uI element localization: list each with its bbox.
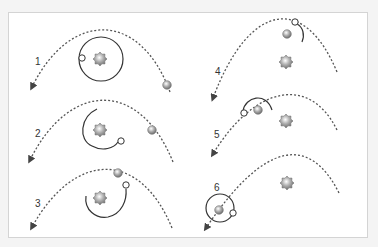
planet-icon (114, 169, 123, 178)
star-icon (93, 123, 107, 137)
panel-label: 2 (35, 129, 41, 139)
small-body-icon (292, 19, 298, 25)
gravity-assist-diagram (0, 0, 378, 247)
panel-label: 1 (35, 57, 41, 67)
panel-label: 6 (214, 183, 220, 193)
small-body-icon (79, 55, 85, 61)
star-icon (279, 55, 293, 69)
small-body-icon (118, 138, 124, 144)
panel-6 (206, 155, 339, 228)
planet-icon (215, 206, 224, 215)
trajectory-dashed-arrow (213, 95, 337, 154)
panel-4 (213, 19, 337, 98)
panel-label: 3 (35, 199, 41, 209)
star-icon (93, 52, 107, 66)
star-icon (93, 191, 107, 205)
small-body-icon (230, 210, 236, 216)
panel-label: 4 (215, 67, 221, 77)
trajectory-dashed-arrow (213, 19, 337, 98)
trajectory-dashed-arrow (206, 155, 339, 228)
panel-3 (32, 169, 172, 228)
planet-icon (163, 81, 172, 90)
panel-5 (213, 95, 337, 154)
star-icon (279, 114, 293, 128)
panel-label: 5 (214, 130, 220, 140)
small-body-icon (241, 110, 247, 116)
planet-icon (148, 126, 157, 135)
orbit-arc (86, 189, 126, 217)
small-body-icon (123, 182, 129, 188)
orbit-arc (297, 24, 303, 42)
panel-2 (30, 100, 173, 162)
planet-icon (254, 106, 263, 115)
diagram-background: 123456 (0, 0, 378, 247)
panel-1 (32, 30, 171, 92)
planet-icon (283, 30, 292, 39)
star-icon (280, 176, 294, 190)
